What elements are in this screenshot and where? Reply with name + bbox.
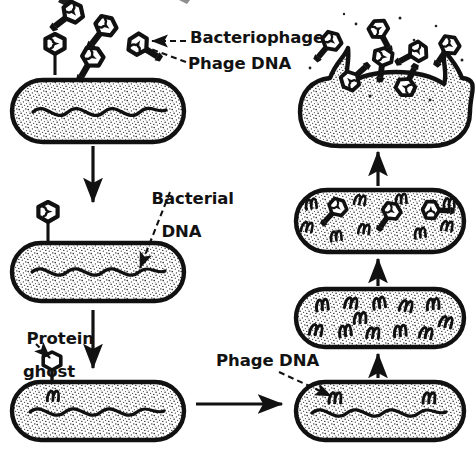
label-bacterial-dna-line1: Bacterial (152, 189, 234, 208)
label-bacterial-dna: Bacterial DNA (129, 174, 234, 275)
label-bacteriophage: Bacteriophage (190, 30, 324, 47)
bacterium-stage-1 (12, 80, 184, 142)
label-protein-ghost: Protein ghost (4, 314, 94, 415)
label-protein-ghost-line2: ghost (4, 364, 94, 381)
label-protein-ghost-line1: Protein (27, 329, 94, 348)
bacteriophage-lytic-cycle-diagram: Bacteriophage Phage DNA Bacterial DNA Pr… (0, 0, 476, 453)
label-phage-dna-bottom: Phage DNA (216, 353, 319, 370)
stage-6-assembly (296, 190, 464, 252)
label-phage-dna-top: Phage DNA (188, 56, 291, 73)
label-bacterial-dna-line2: DNA (129, 224, 234, 241)
stage-5-replication (296, 289, 464, 347)
